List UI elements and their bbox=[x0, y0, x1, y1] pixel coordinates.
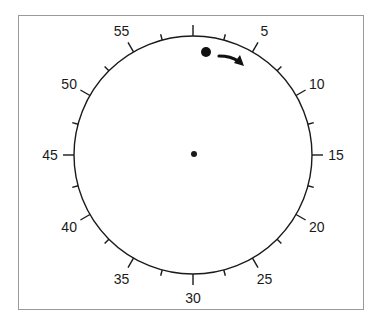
major-tick bbox=[296, 90, 306, 96]
minor-tick bbox=[224, 270, 226, 276]
marker-dot bbox=[201, 47, 211, 57]
minor-tick bbox=[224, 34, 226, 40]
minor-tick bbox=[277, 239, 281, 243]
major-tick bbox=[80, 90, 90, 96]
tick-label-5: 5 bbox=[261, 23, 269, 39]
tick-label-40: 40 bbox=[61, 219, 77, 235]
minor-tick bbox=[161, 34, 163, 40]
tick-label-10: 10 bbox=[309, 76, 325, 92]
clockwise-arrow-icon bbox=[219, 55, 244, 66]
tick-label-30: 30 bbox=[185, 290, 201, 306]
major-tick bbox=[296, 215, 306, 221]
major-tick bbox=[253, 42, 259, 52]
minor-tick bbox=[72, 123, 78, 125]
minor-tick bbox=[277, 67, 281, 71]
circular-dial: 510152025303540455055 bbox=[0, 0, 384, 325]
tick-labels: 510152025303540455055 bbox=[42, 23, 344, 306]
minor-tick bbox=[72, 186, 78, 188]
minor-tick bbox=[308, 123, 314, 125]
minor-tick bbox=[105, 239, 109, 243]
tick-label-35: 35 bbox=[114, 271, 130, 287]
tick-label-20: 20 bbox=[309, 219, 325, 235]
tick-label-50: 50 bbox=[61, 76, 77, 92]
minor-tick bbox=[161, 270, 163, 276]
tick-label-25: 25 bbox=[257, 271, 273, 287]
center-dot bbox=[191, 151, 197, 157]
major-tick bbox=[80, 215, 90, 221]
major-tick bbox=[128, 42, 134, 52]
tick-label-45: 45 bbox=[42, 147, 58, 163]
major-tick bbox=[253, 258, 259, 268]
tick-label-15: 15 bbox=[328, 147, 344, 163]
minor-tick bbox=[105, 67, 109, 71]
tick-label-55: 55 bbox=[114, 23, 130, 39]
major-tick bbox=[128, 258, 134, 268]
minor-tick bbox=[308, 186, 314, 188]
